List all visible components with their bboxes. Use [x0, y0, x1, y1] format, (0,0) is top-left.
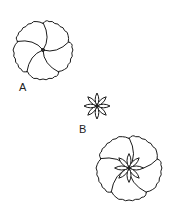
flower-illustration: [0, 0, 175, 211]
flower-a-ruffled-icon: [13, 21, 73, 80]
flower-b-star-icon: [84, 93, 110, 119]
label-b: B: [79, 124, 86, 135]
flower-combined-inner-icon: [115, 154, 144, 183]
label-a: A: [19, 82, 26, 93]
